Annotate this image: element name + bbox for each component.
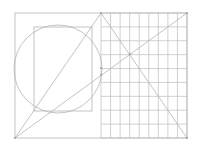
vertex-point (100, 67, 102, 69)
diagram-svg (0, 0, 198, 156)
vertex-point (186, 12, 188, 14)
vertex-point (129, 53, 131, 55)
left-diagonal-line (15, 13, 101, 138)
geometric-diagram (0, 0, 198, 156)
right-diagonal-line (101, 13, 187, 138)
circle (14, 25, 102, 113)
vertex-point (100, 74, 102, 76)
vertex-point (186, 137, 188, 139)
vertex-point (100, 12, 102, 14)
vertex-point (14, 137, 16, 139)
